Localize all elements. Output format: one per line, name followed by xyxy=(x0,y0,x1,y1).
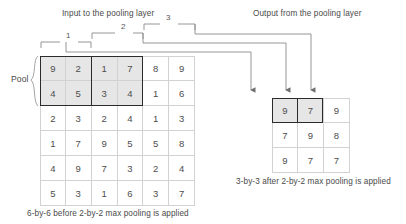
input-cell: 1 xyxy=(92,56,118,81)
window-label-1: 1 xyxy=(64,31,72,40)
input-cell: 6 xyxy=(118,181,144,206)
input-cell: 5 xyxy=(118,131,144,156)
input-cell: 4 xyxy=(118,81,144,106)
output-cell: 7 xyxy=(298,98,324,123)
input-cell: 7 xyxy=(66,131,92,156)
input-cell: 3 xyxy=(143,181,169,206)
input-cell: 1 xyxy=(143,106,169,131)
input-cell: 7 xyxy=(92,156,118,181)
input-cell: 7 xyxy=(118,56,144,81)
output-cell: 7 xyxy=(298,148,324,173)
output-cell: 9 xyxy=(272,148,298,173)
input-cell: 2 xyxy=(92,106,118,131)
input-cell: 7 xyxy=(169,181,195,206)
input-cell: 3 xyxy=(66,106,92,131)
input-cell: 4 xyxy=(40,156,66,181)
output-cell: 9 xyxy=(324,98,350,123)
pooling-diagram: Input to the pooling layer Output from t… xyxy=(0,0,406,224)
output-cell: 8 xyxy=(324,123,350,148)
input-cell: 8 xyxy=(143,56,169,81)
input-cell: 5 xyxy=(143,131,169,156)
window-label-3: 3 xyxy=(164,13,172,22)
input-cell: 3 xyxy=(169,106,195,131)
output-cell: 7 xyxy=(324,148,350,173)
input-cell: 5 xyxy=(66,81,92,106)
input-cell: 2 xyxy=(143,156,169,181)
input-cell: 9 xyxy=(92,131,118,156)
window-label-2: 2 xyxy=(119,22,127,31)
input-cell: 1 xyxy=(92,181,118,206)
input-cell: 3 xyxy=(66,181,92,206)
input-cell: 1 xyxy=(40,131,66,156)
input-cell: 5 xyxy=(40,181,66,206)
input-cell: 8 xyxy=(169,131,195,156)
output-cell: 9 xyxy=(272,98,298,123)
input-matrix: 921789453416232413179558497324531637 xyxy=(40,56,195,206)
input-cell: 3 xyxy=(92,81,118,106)
input-cell: 9 xyxy=(40,56,66,81)
input-cell: 3 xyxy=(118,156,144,181)
input-cell: 1 xyxy=(143,81,169,106)
input-cell: 4 xyxy=(40,81,66,106)
output-cell: 9 xyxy=(298,123,324,148)
input-cell: 9 xyxy=(66,156,92,181)
output-matrix: 979798977 xyxy=(272,98,350,173)
input-cell: 2 xyxy=(40,106,66,131)
input-cell: 6 xyxy=(169,81,195,106)
output-cell: 7 xyxy=(272,123,298,148)
input-cell: 4 xyxy=(118,106,144,131)
input-cell: 4 xyxy=(169,156,195,181)
input-cell: 9 xyxy=(169,56,195,81)
input-cell: 2 xyxy=(66,56,92,81)
